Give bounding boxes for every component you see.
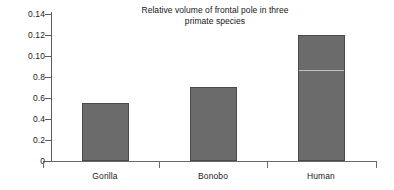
x-axis-tick bbox=[43, 162, 44, 168]
bar-gorilla bbox=[82, 103, 129, 161]
y-axis-label-7: 0 bbox=[5, 157, 45, 166]
x-axis-line bbox=[43, 161, 377, 162]
chart-title: Relative volume of frontal pole in three… bbox=[95, 5, 335, 27]
y-axis-tick bbox=[45, 161, 51, 162]
y-axis-label-2: 0.10 bbox=[5, 52, 45, 61]
y-axis-tick bbox=[45, 140, 51, 141]
y-axis-tick bbox=[45, 98, 51, 99]
y-axis-tick bbox=[45, 77, 51, 78]
y-axis-tick bbox=[45, 119, 51, 120]
y-axis-tick bbox=[45, 14, 51, 15]
x-axis-tick bbox=[376, 162, 377, 168]
y-axis-tick bbox=[45, 56, 51, 57]
y-axis-label-3: 0.8 bbox=[5, 73, 45, 82]
scan-artifact-line bbox=[299, 70, 344, 71]
bar-chart-figure: Relative volume of frontal pole in three… bbox=[0, 0, 394, 190]
bar-human bbox=[298, 35, 345, 161]
x-axis-label-bonobo: Bonobo bbox=[168, 171, 258, 181]
x-axis-tick bbox=[159, 162, 160, 168]
y-axis-label-5: 0.4 bbox=[5, 115, 45, 124]
y-axis-line bbox=[51, 12, 52, 162]
x-axis-label-gorilla: Gorilla bbox=[60, 171, 150, 181]
x-axis-tick bbox=[267, 162, 268, 168]
y-axis-label-4: 0.6 bbox=[5, 94, 45, 103]
x-axis-label-human: Human bbox=[276, 171, 366, 181]
y-axis-label-1: 0.12 bbox=[5, 31, 45, 40]
y-axis-label-0: 0.14 bbox=[5, 10, 45, 19]
bar-bonobo bbox=[190, 87, 237, 161]
y-axis-label-6: 0.2 bbox=[5, 136, 45, 145]
y-axis-tick bbox=[45, 35, 51, 36]
